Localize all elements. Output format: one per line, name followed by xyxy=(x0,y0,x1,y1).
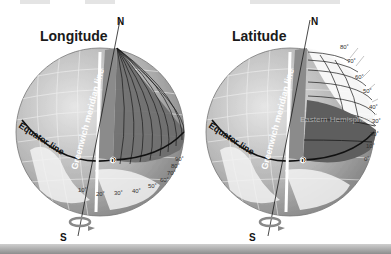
origin-label-left: 0 xyxy=(110,157,115,165)
north-pole-label-left: N xyxy=(117,16,124,27)
north-pole-label-right: N xyxy=(311,16,318,27)
south-pole-label-left: S xyxy=(60,232,67,243)
hemisphere-label: Eastern Hemisphere xyxy=(300,115,373,124)
origin-label-right: 0 xyxy=(300,157,305,165)
latitude-title: Latitude xyxy=(232,28,286,44)
longitude-title: Longitude xyxy=(40,28,108,44)
bottom-divider-bar xyxy=(0,244,391,254)
longitude-latitude-diagram: Greenwich meridian line Equator line Gre… xyxy=(0,0,391,254)
south-pole-label-right: S xyxy=(249,232,256,243)
